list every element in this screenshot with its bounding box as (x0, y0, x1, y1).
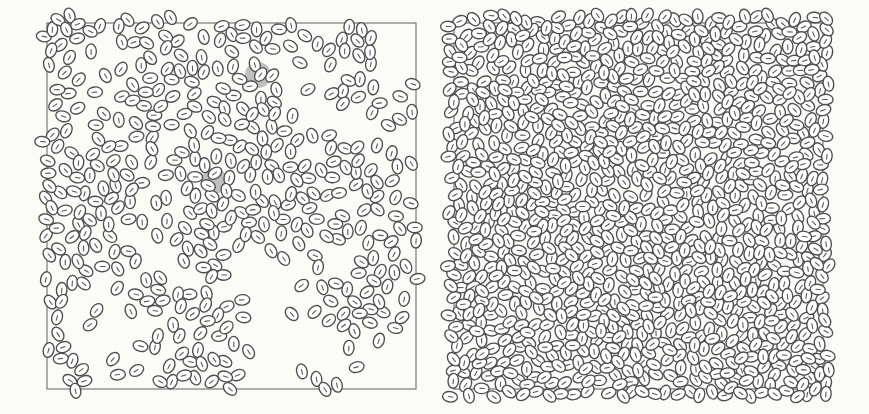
particle (448, 94, 460, 110)
particle (263, 242, 280, 260)
particle (391, 219, 408, 237)
particle (299, 81, 317, 98)
particle (372, 97, 388, 109)
particle (465, 10, 483, 28)
particle (275, 249, 292, 267)
particle (224, 153, 237, 170)
particle (145, 120, 161, 132)
particle (158, 169, 174, 181)
particle (50, 84, 65, 95)
particle (343, 19, 355, 35)
particle (474, 383, 489, 394)
particle (398, 291, 411, 307)
particle (88, 196, 104, 208)
panel-right-dense (440, 6, 838, 406)
particle (343, 340, 355, 356)
particle (139, 272, 153, 289)
particle (323, 139, 338, 157)
particle (782, 288, 794, 304)
particle (295, 363, 309, 380)
particle (133, 20, 151, 37)
particle (200, 315, 216, 327)
particle (55, 340, 73, 355)
particle (368, 201, 386, 219)
particle (257, 216, 270, 233)
particle (128, 130, 145, 143)
particle (283, 305, 301, 323)
particle (172, 47, 190, 64)
particle (115, 33, 130, 51)
particle (264, 43, 280, 55)
particle (388, 210, 404, 222)
particle (367, 250, 379, 266)
particle (182, 289, 197, 300)
particle (271, 24, 287, 36)
particle (39, 271, 53, 288)
particle (283, 161, 299, 173)
particle (260, 144, 272, 160)
particle (286, 108, 299, 124)
particle (161, 213, 172, 229)
particle (328, 218, 343, 229)
particle (56, 204, 73, 218)
particle (41, 168, 56, 179)
particle (88, 301, 106, 319)
particle (441, 21, 456, 32)
particle (97, 66, 114, 84)
particle (150, 227, 165, 245)
particle (149, 12, 166, 30)
particle (820, 386, 832, 402)
particle (403, 154, 420, 172)
particle (296, 27, 314, 44)
particle (471, 167, 486, 178)
particle (195, 49, 208, 65)
panel-left-sparse (34, 7, 426, 399)
particle (588, 343, 600, 359)
particle (276, 125, 292, 137)
particle (196, 63, 211, 81)
particle (234, 294, 250, 306)
particle (240, 342, 257, 360)
particle (585, 51, 600, 62)
particle (49, 325, 66, 343)
figure (0, 0, 869, 414)
particle (285, 144, 296, 159)
particle (138, 87, 153, 98)
particle (782, 27, 797, 38)
particle (348, 139, 366, 157)
particle (315, 278, 330, 296)
particle (161, 357, 177, 375)
particle (109, 260, 126, 278)
particle (281, 38, 299, 55)
particle (223, 43, 241, 60)
particle (136, 58, 147, 73)
particle (174, 165, 188, 182)
particle (210, 148, 222, 164)
particle (348, 360, 365, 374)
particle (120, 213, 137, 226)
particle (112, 60, 129, 78)
particle (306, 303, 324, 321)
particle (309, 214, 324, 225)
particle (275, 225, 287, 241)
particle (343, 224, 354, 239)
particle (34, 136, 50, 148)
particle (380, 278, 394, 295)
particle (291, 235, 308, 253)
particle (598, 65, 609, 80)
particle (596, 323, 607, 338)
particle (250, 154, 262, 170)
particle (367, 79, 379, 95)
particle (137, 35, 155, 52)
particle (507, 265, 523, 276)
particle (305, 127, 320, 145)
particle (758, 349, 769, 364)
simulation-snapshots (0, 0, 869, 414)
particle (104, 350, 122, 368)
particle (371, 332, 386, 350)
particle (123, 302, 139, 320)
particle (737, 317, 749, 333)
particle (234, 19, 251, 32)
particle (74, 275, 92, 293)
particle (817, 10, 835, 28)
